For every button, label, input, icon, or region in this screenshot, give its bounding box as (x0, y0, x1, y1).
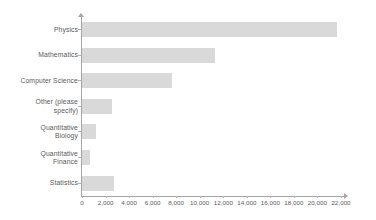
value-tick-label: 20,000 (308, 199, 327, 207)
bar-chart: PhysicsMathematicsComputer ScienceOther … (0, 0, 376, 220)
category-tick (78, 55, 81, 56)
category-tick (78, 157, 81, 158)
plot-area: PhysicsMathematicsComputer ScienceOther … (0, 0, 376, 220)
bar-row: Mathematics (0, 43, 376, 69)
value-tick (129, 196, 130, 198)
value-tick (294, 196, 295, 198)
value-tick (317, 196, 318, 198)
value-tick (223, 196, 224, 198)
value-tick (270, 196, 271, 198)
category-label-quantitative-finance: Quantitative Finance (2, 150, 78, 167)
category-tick (78, 80, 81, 81)
category-label-computer-science: Computer Science (2, 77, 78, 85)
category-label-quantitative-biology: Quantitative Biology (2, 124, 78, 141)
bar-statistics[interactable] (82, 176, 114, 191)
category-label-other-please-specify: Other (please specify) (2, 98, 78, 115)
bar-mathematics[interactable] (82, 48, 215, 63)
value-tick (200, 196, 201, 198)
value-tick-label: 14,000 (237, 199, 256, 207)
category-tick (78, 183, 81, 184)
value-tick-label: 2,000 (98, 199, 114, 207)
bar-other-please-specify[interactable] (82, 99, 112, 114)
category-tick (78, 29, 81, 30)
value-tick-label: 18,000 (284, 199, 303, 207)
value-tick-label: 8,000 (168, 199, 184, 207)
bar-row: Statistics (0, 171, 376, 197)
category-tick (78, 106, 81, 107)
value-tick-label: 10,000 (190, 199, 209, 207)
bar-physics[interactable] (82, 22, 337, 37)
value-tick (106, 196, 107, 198)
bar-quantitative-finance[interactable] (82, 150, 90, 165)
bar-row: Physics (0, 17, 376, 43)
value-tick (341, 196, 342, 198)
value-tick-label: 6,000 (145, 199, 161, 207)
value-tick-label: 4,000 (121, 199, 137, 207)
bar-row: Quantitative Finance (0, 145, 376, 171)
value-tick-label: 22,000 (331, 199, 350, 207)
value-tick-label: 12,000 (214, 199, 233, 207)
bar-row: Other (please specify) (0, 94, 376, 120)
category-tick (78, 131, 81, 132)
value-tick (247, 196, 248, 198)
category-label-physics: Physics (2, 26, 78, 34)
bar-row: Computer Science (0, 68, 376, 94)
value-tick (82, 196, 83, 198)
value-tick-label: 0 (80, 199, 84, 207)
bar-computer-science[interactable] (82, 73, 172, 88)
value-tick (153, 196, 154, 198)
bar-row: Quantitative Biology (0, 119, 376, 145)
category-label-statistics: Statistics (2, 179, 78, 187)
category-label-mathematics: Mathematics (2, 51, 78, 59)
value-tick (176, 196, 177, 198)
bar-quantitative-biology[interactable] (82, 124, 96, 139)
value-tick-label: 16,000 (261, 199, 280, 207)
